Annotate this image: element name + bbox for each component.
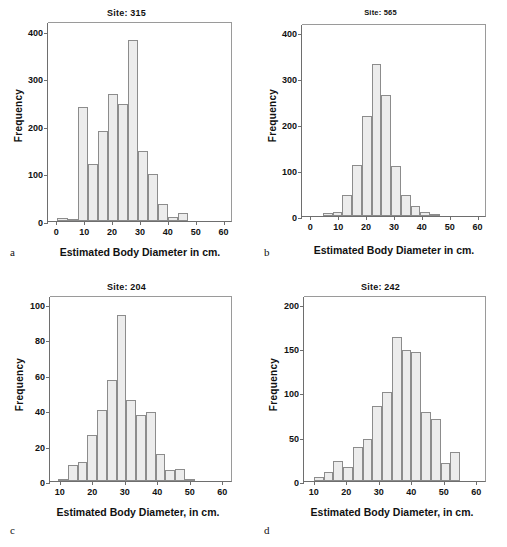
y-axis-tick-mark bbox=[46, 377, 50, 378]
x-axis-tick-label: 20 bbox=[87, 487, 97, 497]
x-axis-tick-label: 20 bbox=[107, 227, 117, 237]
x-axis-tick-label: 60 bbox=[473, 222, 483, 232]
histogram-bar bbox=[333, 461, 343, 481]
x-axis-tick-label: 30 bbox=[389, 222, 399, 232]
histogram-bar bbox=[68, 465, 78, 481]
histogram-bar bbox=[421, 412, 431, 481]
x-axis-tick-mark bbox=[310, 216, 311, 220]
x-axis-tick-mark bbox=[56, 221, 57, 225]
panel-c-plot: 020406080100 102030405060 bbox=[50, 296, 232, 482]
histogram-bar bbox=[323, 213, 333, 216]
panel-b-y-label: Frequency bbox=[267, 81, 278, 151]
x-axis-tick-label: 40 bbox=[417, 222, 427, 232]
histogram-bar bbox=[343, 467, 353, 481]
histogram-bar bbox=[392, 337, 402, 481]
x-axis-tick-label: 10 bbox=[333, 222, 343, 232]
y-axis-tick-mark bbox=[298, 172, 302, 173]
x-axis-tick-label: 0 bbox=[54, 227, 59, 237]
histogram-bar bbox=[353, 447, 363, 481]
x-axis-tick-label: 20 bbox=[341, 487, 351, 497]
y-axis-tick-mark bbox=[300, 394, 304, 395]
y-axis-tick-mark bbox=[300, 483, 304, 484]
panel-b-plot: 0100200300400 0102030405060 bbox=[302, 24, 486, 217]
x-axis-tick-label: 30 bbox=[120, 487, 130, 497]
y-axis-tick-mark bbox=[46, 306, 50, 307]
panel-a-x-label: Estimated Body Diameter in cm. bbox=[38, 246, 242, 258]
histogram-bar bbox=[324, 472, 334, 481]
panel-d-letter: d bbox=[264, 524, 270, 536]
y-axis-tick-mark bbox=[300, 439, 304, 440]
y-axis-tick-mark bbox=[46, 448, 50, 449]
x-axis-tick-mark bbox=[224, 221, 225, 225]
histogram-bar bbox=[362, 116, 372, 216]
x-axis-tick-label: 20 bbox=[361, 222, 371, 232]
x-axis-tick-mark bbox=[314, 481, 315, 485]
histogram-bar bbox=[431, 419, 441, 481]
y-axis-tick-mark bbox=[44, 128, 48, 129]
histogram-bar bbox=[168, 217, 178, 221]
panel-a: Site: 315 0100200300400 0102030405060 Fr… bbox=[0, 0, 253, 273]
x-axis-tick-mark bbox=[125, 481, 126, 485]
x-axis-tick-mark bbox=[168, 221, 169, 225]
x-axis-tick-label: 60 bbox=[217, 487, 227, 497]
y-axis-tick-mark bbox=[46, 341, 50, 342]
x-axis-tick-label: 60 bbox=[219, 227, 229, 237]
histogram-bar bbox=[98, 131, 108, 221]
x-axis-tick-label: 50 bbox=[439, 487, 449, 497]
panel-a-title: Site: 315 bbox=[0, 8, 253, 18]
histogram-bar bbox=[138, 151, 148, 221]
x-axis-tick-label: 50 bbox=[191, 227, 201, 237]
histogram-bar bbox=[314, 477, 324, 481]
y-axis-tick-mark bbox=[298, 126, 302, 127]
x-axis-tick-mark bbox=[112, 221, 113, 225]
x-axis-tick-mark bbox=[84, 221, 85, 225]
y-axis-tick-mark bbox=[298, 34, 302, 35]
panel-d-bars bbox=[304, 297, 485, 481]
panel-a-y-label: Frequency bbox=[13, 81, 24, 151]
panel-b-bars bbox=[302, 25, 485, 216]
histogram-bar bbox=[178, 213, 188, 221]
panel-b-x-label: Estimated Body Diameter in cm. bbox=[292, 244, 496, 256]
x-axis-tick-mark bbox=[222, 481, 223, 485]
x-axis-tick-label: 40 bbox=[152, 487, 162, 497]
histogram-bar bbox=[372, 64, 382, 216]
x-axis-tick-mark bbox=[92, 481, 93, 485]
panel-a-plot: 0100200300400 0102030405060 bbox=[48, 22, 232, 222]
y-axis-tick-mark bbox=[46, 412, 50, 413]
y-axis-tick-mark bbox=[46, 483, 50, 484]
y-axis-tick-mark bbox=[44, 223, 48, 224]
panel-d-title: Site: 242 bbox=[254, 282, 507, 292]
y-axis-tick-mark bbox=[300, 350, 304, 351]
x-axis-tick-mark bbox=[478, 216, 479, 220]
histogram-bar bbox=[430, 214, 440, 216]
histogram-bar bbox=[107, 380, 117, 481]
histogram-bar bbox=[128, 40, 138, 221]
y-axis-tick-mark bbox=[298, 80, 302, 81]
panel-c-y-label: Frequency bbox=[14, 350, 25, 420]
y-axis-tick-mark bbox=[300, 306, 304, 307]
panel-d: Site: 242 050100150200 102030405060 Freq… bbox=[254, 274, 507, 547]
x-axis-tick-label: 40 bbox=[406, 487, 416, 497]
x-axis-tick-mark bbox=[196, 221, 197, 225]
histogram-bar bbox=[352, 165, 362, 216]
panel-b-title: Site: 565 bbox=[254, 8, 507, 17]
histogram-bar bbox=[158, 204, 168, 221]
x-axis-tick-mark bbox=[338, 216, 339, 220]
histogram-bar bbox=[342, 195, 352, 216]
histogram-bar bbox=[411, 352, 421, 481]
x-axis-tick-mark bbox=[444, 481, 445, 485]
histogram-bar bbox=[450, 452, 460, 481]
panel-c-bars bbox=[50, 297, 231, 481]
histogram-bar bbox=[156, 454, 166, 481]
x-axis-tick-mark bbox=[450, 216, 451, 220]
x-axis-tick-mark bbox=[140, 221, 141, 225]
histogram-bar bbox=[146, 412, 156, 481]
y-axis-tick-mark bbox=[44, 80, 48, 81]
histogram-bar bbox=[372, 406, 382, 481]
y-axis-tick-mark bbox=[298, 218, 302, 219]
x-axis-tick-mark bbox=[346, 481, 347, 485]
histogram-bar bbox=[165, 470, 175, 481]
histogram-bar bbox=[108, 94, 118, 221]
histogram-bar bbox=[117, 315, 127, 482]
histogram-bar bbox=[136, 415, 146, 481]
